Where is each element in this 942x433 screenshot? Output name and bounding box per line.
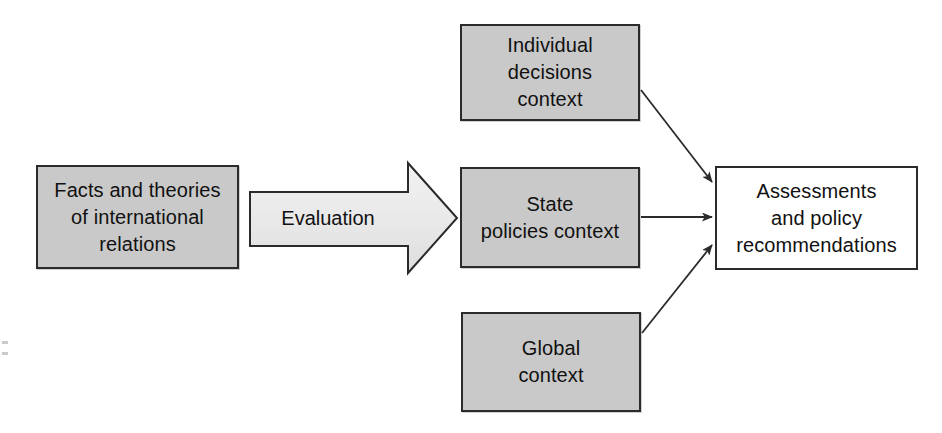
scan-artifact-mark bbox=[2, 352, 8, 355]
block-arrow-evaluation-shape bbox=[248, 160, 460, 276]
node-global-context: Global context bbox=[461, 312, 641, 412]
node-state-policies-context: State policies context bbox=[460, 167, 640, 268]
node-facts-and-theories: Facts and theories of international rela… bbox=[36, 165, 239, 269]
diagram-canvas: Facts and theories of international rela… bbox=[0, 0, 942, 433]
scan-artifact-mark bbox=[2, 341, 8, 344]
node-individual-decisions-context: Individual decisions context bbox=[460, 24, 640, 121]
block-arrow-evaluation: Evaluation bbox=[248, 160, 460, 276]
arrow-individual-to-assessments bbox=[641, 90, 712, 182]
arrow-global-to-assessments bbox=[642, 245, 712, 333]
node-assessments-and-policy-recommendations: Assessments and policy recommendations bbox=[715, 166, 918, 270]
